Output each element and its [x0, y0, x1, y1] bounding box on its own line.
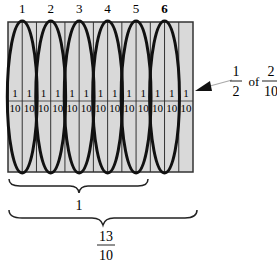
tenth-denominator: 10	[52, 102, 64, 114]
svg-text:2: 2	[233, 84, 240, 99]
tenth-numerator: 1	[155, 87, 161, 99]
pointer-arrow-icon	[195, 80, 232, 91]
group-number: 5	[133, 1, 140, 16]
tenth-numerator: 1	[140, 87, 146, 99]
tenth-numerator: 1	[126, 87, 132, 99]
tenth-denominator: 10	[81, 102, 93, 114]
tenth-numerator: 1	[55, 87, 61, 99]
tenth-denominator: 10	[123, 102, 135, 114]
svg-text:2: 2	[268, 64, 275, 79]
tenth-numerator: 1	[98, 87, 104, 99]
brace-one-label: 1	[76, 198, 83, 213]
tenth-denominator: 10	[67, 102, 79, 114]
tenth-denominator: 10	[138, 102, 150, 114]
tenth-denominator: 10	[109, 102, 121, 114]
group-number: 1	[19, 1, 26, 16]
fraction-diagram: 110110110110110110110110110110110110110 …	[0, 0, 277, 262]
group-number-labels: 123456	[19, 1, 168, 16]
group-number: 2	[47, 1, 54, 16]
svg-text:10: 10	[99, 248, 113, 262]
tenth-numerator: 1	[41, 87, 47, 99]
group-number: 3	[76, 1, 83, 16]
tenth-denominator: 10	[95, 102, 107, 114]
half-of-two-tenths-annotation: 1 2 of 2 10	[230, 64, 277, 99]
tenth-numerator: 1	[169, 87, 175, 99]
tenth-denominator: 10	[180, 102, 192, 114]
tenth-numerator: 1	[112, 87, 118, 99]
brace-thirteen-tenths	[9, 210, 197, 225]
tenth-denominator: 10	[24, 102, 36, 114]
tenth-numerator: 1	[12, 87, 18, 99]
tenth-numerator: 1	[69, 87, 75, 99]
svg-text:13: 13	[99, 229, 113, 244]
tenth-denominator: 10	[152, 102, 164, 114]
brace-thirteen-tenths-label: 13 10	[97, 229, 115, 262]
group-number: 6	[161, 1, 168, 16]
brace-one	[9, 179, 148, 193]
svg-text:1: 1	[233, 64, 240, 79]
tenth-numerator: 1	[84, 87, 90, 99]
group-number: 4	[104, 1, 111, 16]
tenth-denominator: 10	[166, 102, 178, 114]
tenth-numerator: 1	[183, 87, 189, 99]
tenth-denominator: 10	[38, 102, 50, 114]
svg-text:10: 10	[264, 84, 277, 99]
tenth-numerator: 1	[27, 87, 33, 99]
svg-text:of: of	[249, 74, 261, 89]
tenth-denominator: 10	[10, 102, 22, 114]
